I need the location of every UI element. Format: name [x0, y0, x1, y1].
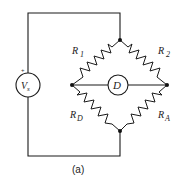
polarity-plus: +	[21, 67, 25, 73]
detector: D	[108, 75, 128, 95]
bottom-wire	[28, 97, 120, 156]
resistor-rd	[72, 85, 120, 131]
figure-caption: (a)	[72, 164, 84, 175]
bridge-circuit-diagram: Vs + D R1 R2 RD RA (a)	[0, 0, 185, 181]
node-right	[165, 83, 169, 87]
top-wire	[28, 13, 120, 73]
node-bottom	[118, 129, 122, 133]
label-rd: RD	[69, 109, 83, 123]
detector-label: D	[112, 79, 121, 91]
node-top	[118, 38, 122, 42]
source-label: Vs	[21, 80, 30, 93]
label-ra: RA	[157, 109, 170, 123]
label-r1: R1	[71, 45, 84, 59]
resistor-ra	[120, 85, 167, 131]
node-left	[70, 83, 74, 87]
label-r2: R2	[157, 45, 170, 59]
